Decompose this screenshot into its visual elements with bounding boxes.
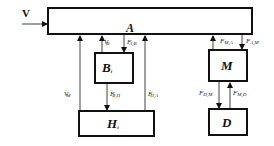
edge-label-fdm: FD,M — [199, 90, 212, 97]
block-h-name: H — [107, 116, 117, 131]
diagram-canvas — [0, 0, 274, 146]
edge-label-fmd: FM,D — [233, 90, 246, 97]
block-b-subscript: i — [111, 69, 112, 74]
edge-label-fab: F'A,B — [127, 38, 137, 46]
block-b — [95, 53, 133, 83]
edge-label-fam: FA,M — [246, 38, 259, 45]
edge-label-vm: V'M — [64, 90, 70, 98]
block-b-name: B — [102, 60, 111, 75]
input-v-label: V — [22, 8, 30, 19]
block-m-label: M — [221, 59, 233, 72]
edge-label-fma: FM,A — [220, 38, 233, 45]
edge-label-fbh: F'B,H — [110, 90, 120, 98]
block-a-label: A — [126, 22, 134, 34]
block-h-label: Hi — [107, 117, 119, 130]
edge-label-vb: V'B — [104, 38, 109, 46]
edge-label-fha: F'H,A — [148, 90, 158, 98]
block-d-label: D — [222, 116, 231, 129]
block-h-subscript: i — [117, 125, 118, 130]
block-a — [48, 8, 252, 34]
block-b-label: Bi — [102, 61, 112, 74]
